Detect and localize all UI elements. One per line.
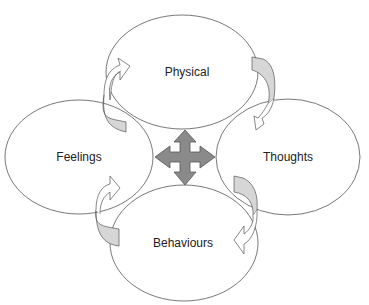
thoughts-label: Thoughts	[263, 150, 313, 164]
four-way-arrow-icon	[155, 130, 215, 185]
curved-arrow-thoughts-to-behaviours-icon	[234, 176, 257, 254]
curved-arrow-feelings-to-physical-icon	[103, 58, 130, 132]
curved-arrow-physical-to-thoughts-icon	[252, 57, 275, 130]
feelings-label: Feelings	[56, 150, 101, 164]
curved-arrow-behaviours-to-feelings-icon	[96, 176, 120, 246]
physical-label: Physical	[165, 65, 210, 79]
behaviours-label: Behaviours	[153, 236, 213, 250]
